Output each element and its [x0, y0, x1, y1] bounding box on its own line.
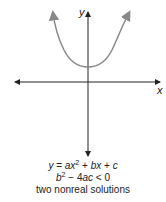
- equation: y = ax2 + bx + c: [0, 160, 166, 172]
- solutions-text: two nonreal solutions: [0, 184, 166, 196]
- x-axis-label: x: [157, 84, 163, 96]
- graph: [0, 0, 166, 160]
- discriminant: b2 − 4ac < 0: [0, 172, 166, 184]
- parabola-curve-right: [88, 13, 129, 67]
- y-axis-label: y: [79, 6, 85, 18]
- parabola-curve: [53, 13, 88, 67]
